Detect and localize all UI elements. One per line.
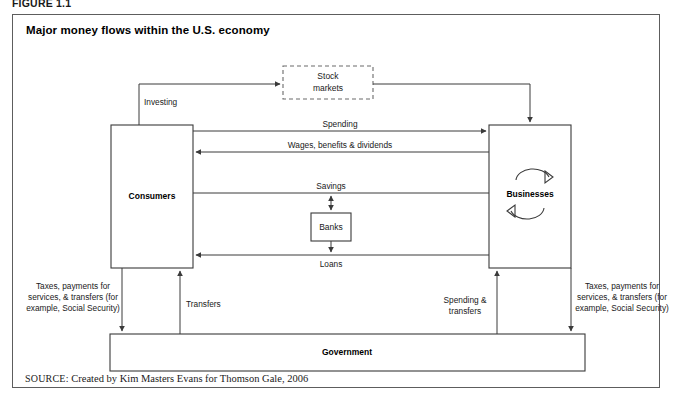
node-stock-markets-label-line1: Stock [317, 71, 339, 81]
node-consumers-label: Consumers [129, 191, 176, 201]
flow-label-wages: Wages, benefits & dividends [288, 140, 392, 150]
economy-flow-diagram: Consumers Businesses Banks Government St… [0, 0, 683, 410]
node-businesses-label: Businesses [506, 189, 554, 199]
node-banks-label: Banks [319, 222, 343, 232]
flow-label-transfers: Transfers [186, 299, 221, 309]
flow-label-investing: Investing [144, 97, 178, 107]
flow-label-savings: Savings [316, 181, 346, 191]
flow-label-taxes-left-line3: example, Social Security) [26, 303, 120, 313]
flow-label-spending-transfers-line1: Spending & [444, 295, 487, 305]
source-label: SOURCE: [25, 373, 69, 384]
figure-container: FIGURE 1.1 Major money flows within the … [0, 0, 683, 410]
flow-label-taxes-right-line2: services, & transfers (for [577, 292, 667, 302]
source-text: Created by Kim Masters Evans for Thomson… [71, 373, 308, 384]
source-attribution: SOURCE: Created by Kim Masters Evans for… [25, 373, 308, 384]
flow-label-spending: Spending [322, 119, 357, 129]
flow-label-taxes-left-line2: services, & transfers (for [28, 292, 118, 302]
node-stock-markets-label-line2: markets [313, 83, 343, 93]
flow-label-taxes-left-line1: Taxes, payments for [36, 281, 110, 291]
flow-line-stock-to-businesses [373, 84, 530, 122]
flow-label-loans: Loans [320, 259, 343, 269]
node-government-label: Government [322, 347, 372, 357]
flow-label-taxes-right-line3: example, Social Security) [575, 303, 669, 313]
flow-label-spending-transfers-line2: transfers [449, 306, 481, 316]
flow-label-taxes-right-line1: Taxes, payments for [585, 281, 659, 291]
